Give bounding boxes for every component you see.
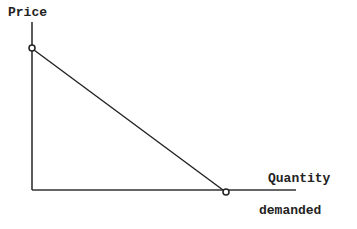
x-axis-label-line2: demanded: [259, 203, 321, 218]
y-axis-label: Price: [8, 5, 47, 20]
x-intercept-marker: [223, 189, 229, 195]
x-axis-label-line1: Quantity: [268, 171, 331, 186]
demand-line: [34, 50, 223, 190]
demand-curve-diagram: Price Quantity demanded: [0, 0, 357, 229]
y-intercept-marker: [29, 45, 35, 51]
